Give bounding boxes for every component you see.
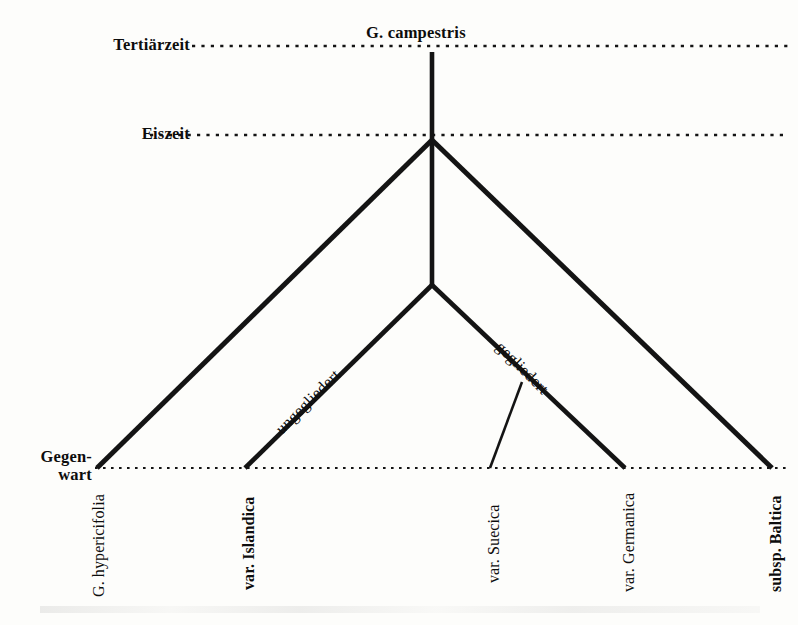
cropped-caption-remnant <box>40 606 760 613</box>
leaf-label-baltica: subsp. Baltica <box>767 495 785 592</box>
era-label-tertiary: Tertiärzeit <box>56 36 190 54</box>
branch-to-suecica <box>490 382 522 468</box>
leaf-label-hypericifolia: G. hypericifolia <box>90 494 108 597</box>
leaf-label-suecica: var. Suecica <box>485 505 503 584</box>
root-taxon-label: G. campestris <box>366 23 466 43</box>
leaf-label-islandica: var. Islandica <box>240 497 258 590</box>
leaf-label-germanica: var. Germanica <box>620 493 638 592</box>
era-label-present: Gegen- wart <box>8 448 92 485</box>
tree-canvas <box>0 0 798 625</box>
branch-to-hypericifolia <box>97 140 432 468</box>
era-label-ice-age: Eiszeit <box>56 125 190 143</box>
branch-to-baltica <box>432 140 772 468</box>
phylogenetic-tree-figure: Tertiärzeit Eiszeit Gegen- wart G. campe… <box>0 0 798 625</box>
